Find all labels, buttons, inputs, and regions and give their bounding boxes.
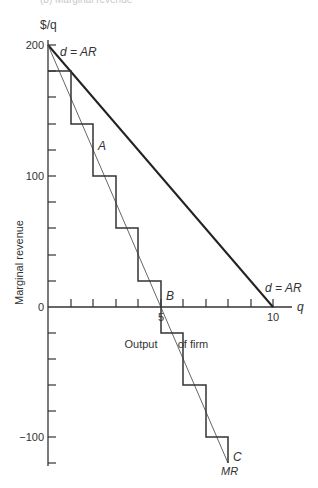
x-tick-10: 10 <box>267 311 279 323</box>
x-tick-5: 5 <box>158 311 164 323</box>
point-b-label: B <box>166 289 174 303</box>
marginal-revenue-diagram: $/q q Marginal revenue 200 100 0 −100 5 … <box>0 0 318 488</box>
y-tick-neg100: −100 <box>19 431 44 443</box>
point-a-label: A <box>97 139 106 153</box>
x-axis-end-label: q <box>297 300 304 314</box>
demand-label-top: d = AR <box>60 45 97 59</box>
x-axis-label-of-firm: of firm <box>178 338 209 350</box>
y-axis-side-label: Marginal revenue <box>13 220 25 305</box>
y-axis-unit-label: $/q <box>40 18 57 32</box>
point-c-label: C <box>233 450 242 464</box>
y-tick-200: 200 <box>26 39 44 51</box>
x-axis-label-output: Output <box>124 338 157 350</box>
demand-curve <box>48 45 273 307</box>
y-tick-100: 100 <box>26 170 44 182</box>
mr-step-curve <box>48 71 228 463</box>
demand-label-bottom: d = AR <box>265 281 302 295</box>
y-ticks <box>48 45 56 463</box>
mr-label: MR <box>221 465 238 477</box>
y-tick-0: 0 <box>38 301 44 313</box>
